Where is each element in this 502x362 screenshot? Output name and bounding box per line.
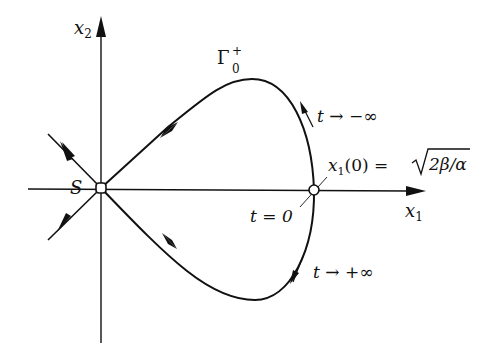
x2-axis-label: x2 bbox=[74, 17, 92, 41]
curve-label-gamma-sup: + bbox=[232, 44, 242, 58]
t-minus-infinity-label: t → −∞ bbox=[317, 106, 377, 126]
x1-zero-formula: x1(0) = 2β/α bbox=[328, 149, 470, 178]
x1-axis-arrow-icon bbox=[406, 186, 426, 196]
t-zero-label: t = 0 bbox=[250, 206, 293, 226]
t-plus-infinity-label: t → +∞ bbox=[313, 262, 373, 282]
phase-portrait-diagram: x2 x1 S Γ + 0 t → −∞ t → +∞ t = 0 x1(0) … bbox=[0, 0, 502, 362]
outflow-arrow-icon bbox=[57, 213, 71, 232]
curve-label-gamma-sub: 0 bbox=[232, 62, 240, 76]
saddle-point-S bbox=[96, 183, 106, 193]
x1-axis-label: x1 bbox=[405, 200, 423, 224]
x1-axis bbox=[28, 186, 426, 196]
svg-text:2β/α: 2β/α bbox=[428, 154, 467, 174]
turning-point-marker bbox=[309, 185, 319, 195]
x2-axis-arrow-icon bbox=[96, 16, 106, 37]
t-minus-arrow-icon bbox=[300, 101, 308, 114]
x2-axis bbox=[96, 16, 106, 343]
curve-label-gamma: Γ bbox=[217, 47, 230, 68]
svg-text:x1(0) =: x1(0) = bbox=[328, 155, 388, 178]
